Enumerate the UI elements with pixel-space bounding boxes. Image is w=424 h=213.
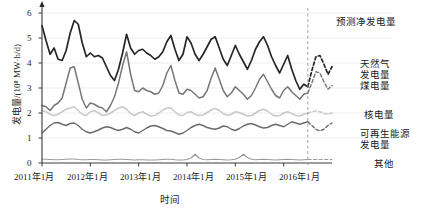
x-axis-title: 时间: [0, 192, 340, 206]
series-line: [42, 52, 308, 112]
axes: [39, 1, 333, 167]
y-axis-arrow: [39, 1, 44, 7]
x-tick-label-2013: 2013年1月: [120, 170, 161, 183]
y-tick-label-6: 6: [27, 8, 32, 18]
plot-series: [42, 21, 332, 161]
y-axis-title: 发电量/(10⁸ MW·h/d): [10, 38, 23, 132]
y-tick-label-3: 3: [27, 83, 32, 93]
x-tick-label-2015: 2015年1月: [226, 170, 267, 183]
legend-label-nuclear: 核电量: [364, 107, 394, 121]
series-line: [42, 107, 308, 116]
chart-figure: 发电量/(10⁸ MW·h/d) 时间 2011年1月 2012年1月 2013…: [0, 0, 424, 213]
x-tick-label-2011: 2011年1月: [14, 170, 54, 183]
y-tick-label-2: 2: [27, 108, 32, 118]
x-tick-label-2016: 2016年1月: [279, 170, 320, 183]
legend-label-renewable-line2: 发电量: [360, 137, 390, 151]
legend-label-coal: 煤电量: [360, 78, 390, 92]
legend-label-forecast-net-generation: 预测净发电量: [336, 14, 396, 28]
y-tick-label-0: 0: [27, 158, 32, 168]
y-tick-label-1: 1: [27, 133, 32, 143]
y-tick-label-5: 5: [27, 33, 32, 43]
gridlines: [42, 13, 392, 138]
x-tick-label-2014: 2014年1月: [173, 170, 214, 183]
legend-label-other: 其他: [374, 156, 394, 170]
x-tick-label-2012: 2012年1月: [67, 170, 108, 183]
series-line: [308, 122, 332, 131]
y-tick-label-4: 4: [27, 58, 32, 68]
series-line: [42, 154, 308, 160]
series-line: [42, 122, 308, 135]
